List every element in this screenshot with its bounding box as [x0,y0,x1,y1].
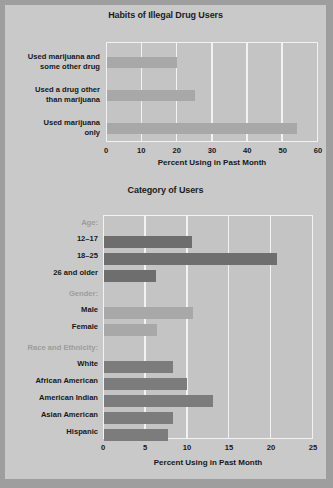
plot-area-habits [106,42,318,142]
group-label-gender: Gender: [5,289,98,298]
bar-1 [107,90,195,101]
chart-panel-category: Category of Users Age: 12–17 18–25 26 an… [5,181,326,485]
xtick-label-habits: 0 [104,146,108,155]
xtick-label-category: 5 [143,443,147,452]
chart-title-habits: Habits of Illegal Drug Users [5,10,326,20]
category-label-male: Male [5,305,98,315]
category-label-marijuana-and-other: Used marijuana and some other drug [5,52,100,71]
category-label-12-17: 12–17 [5,234,98,244]
gridline [228,216,230,438]
xaxis-title-habits: Percent Using in Past Month [158,158,266,167]
category-label-marijuana-only: Used marijuana only [5,118,100,137]
category-label-line: Used marijuana and [5,52,100,62]
bar-0-2 [104,270,156,282]
xtick-label-category: 10 [183,443,191,452]
category-label-line: Used a drug other [5,85,100,95]
bar-0-1 [104,253,277,265]
xtick-label-habits: 10 [137,146,145,155]
chart-area-category: Age: 12–17 18–25 26 and older Gender: Ma… [5,195,326,485]
category-label-line: than marijuana [5,95,100,105]
category-label-line: Used marijuana [5,118,100,128]
bar-0 [107,57,177,68]
gridline [270,216,272,438]
category-label-american-indian: American Indian [5,393,98,403]
bar-1-0 [104,307,193,319]
bar-1-1 [104,324,157,336]
category-label-hispanic: Hispanic [5,427,98,437]
figure-root: Habits of Illegal Drug Users Used mariju… [0,0,333,488]
chart-panel-habits: Habits of Illegal Drug Users Used mariju… [5,5,326,168]
group-label-race-ethnicity: Race and Ethnicity: [5,343,98,352]
bar-2-3 [104,412,173,424]
category-label-asian-american: Asian American [5,410,98,420]
xtick-label-category: 0 [101,443,105,452]
group-label-age: Age: [5,218,98,227]
category-label-line: only [5,128,100,138]
bar-2-0 [104,361,173,373]
xtick-label-habits: 50 [278,146,286,155]
chart-title-category: Category of Users [5,185,326,195]
gridline [312,216,314,438]
category-label-other-than-marijuana: Used a drug other than marijuana [5,85,100,104]
bar-2-1 [104,378,187,390]
category-label-18-25: 18–25 [5,251,98,261]
xtick-label-category: 25 [309,443,317,452]
bar-0-0 [104,236,192,248]
xtick-label-habits: 30 [208,146,216,155]
xtick-label-category: 20 [267,443,275,452]
xaxis-title-category: Percent Using in Past Month [154,458,262,467]
xtick-label-habits: 20 [172,146,180,155]
bar-2-2 [104,395,213,407]
category-label-african-american: African American [5,376,98,386]
category-label-line: some other drug [5,62,100,72]
gridline [317,43,319,141]
xtick-label-habits: 40 [243,146,251,155]
chart-area-habits: Used marijuana and some other drug Used … [5,20,326,168]
category-label-female: Female [5,322,98,332]
bar-2-4 [104,429,168,441]
xtick-label-habits: 60 [314,146,322,155]
xtick-label-category: 15 [225,443,233,452]
bar-2 [107,123,297,134]
plot-area-category [103,215,313,439]
category-label-white: White [5,359,98,369]
category-label-26-and-older: 26 and older [5,268,98,278]
